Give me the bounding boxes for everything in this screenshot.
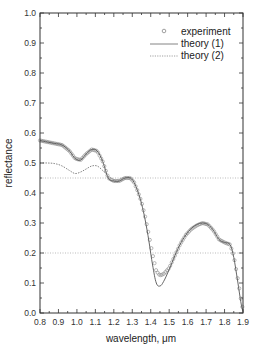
x-tick-label: 0.9 — [53, 317, 65, 327]
x-tick-label: 1.6 — [182, 317, 194, 327]
x-tick-label: 1.0 — [71, 317, 83, 327]
y-tick-label: 0.7 — [24, 98, 36, 108]
x-tick-label: 1.5 — [163, 317, 175, 327]
x-tick-label: 1.3 — [126, 317, 138, 327]
reflectance-chart: 0.80.91.01.11.21.31.41.51.61.71.81.9 0.0… — [0, 0, 259, 353]
legend-label-theory1: theory (1) — [181, 38, 224, 49]
y-tick-label: 0.4 — [24, 188, 36, 198]
y-tick-label: 0.8 — [24, 68, 36, 78]
y-tick-label: 0.0 — [24, 308, 36, 318]
y-tick-label: 1.0 — [24, 8, 36, 18]
x-tick-label: 0.8 — [34, 317, 46, 327]
series-theory-2 — [40, 163, 108, 177]
x-axis-label: wavelength, μm — [105, 333, 176, 344]
reference-lines — [40, 178, 243, 253]
series-theory-1 — [40, 141, 243, 312]
data-series — [38, 139, 244, 312]
x-tick-label: 1.1 — [89, 317, 101, 327]
x-tick-label: 1.2 — [108, 317, 120, 327]
x-tick-label: 1.8 — [219, 317, 231, 327]
legend-label-experiment: experiment — [181, 26, 231, 37]
x-tick-label: 1.4 — [145, 317, 157, 327]
y-tick-label: 0.9 — [24, 38, 36, 48]
y-tick-label: 0.3 — [24, 218, 36, 228]
x-tick-label: 1.7 — [200, 317, 212, 327]
y-tick-label: 0.6 — [24, 128, 36, 138]
series-experiment — [38, 139, 244, 309]
legend-marker-experiment — [162, 29, 166, 33]
y-tick-label: 0.1 — [24, 278, 36, 288]
legend: experiment theory (1) theory (2) — [150, 26, 231, 61]
legend-label-theory2: theory (2) — [181, 50, 224, 61]
x-tick-label: 1.9 — [237, 317, 249, 327]
y-axis-label: reflectance — [3, 138, 14, 187]
y-tick-label: 0.2 — [24, 248, 36, 258]
y-tick-label: 0.5 — [24, 158, 36, 168]
